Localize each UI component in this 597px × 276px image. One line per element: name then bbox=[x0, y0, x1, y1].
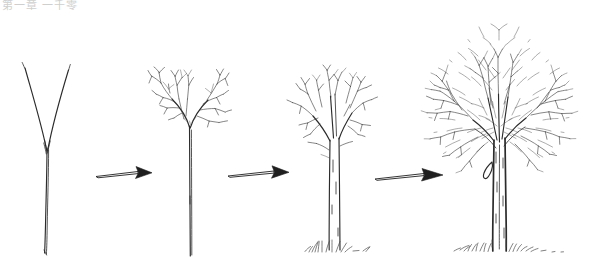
stage-1-branch-left bbox=[25, 68, 47, 150]
arrow-2 bbox=[228, 166, 289, 178]
stage-1-branch-left-tip bbox=[22, 63, 24, 69]
arrow-1 bbox=[96, 167, 152, 179]
arrow-3-head-icon bbox=[422, 169, 444, 182]
stage-1-sapling bbox=[22, 63, 70, 256]
illustration-canvas: 第一章 一千零 bbox=[0, 0, 597, 276]
arrow-3-shaft bbox=[375, 174, 424, 181]
stage-4-trunk-left bbox=[493, 140, 494, 251]
stage-4-mature-tree bbox=[421, 24, 578, 252]
stage-3-leader-center bbox=[331, 96, 334, 138]
stage-3-limb-right-main bbox=[339, 113, 352, 139]
arrow-2-shaft bbox=[228, 171, 274, 177]
stage-4-trunk-stub bbox=[483, 162, 492, 179]
tree-growth-figure bbox=[0, 0, 597, 276]
stage-2-trunk bbox=[190, 126, 191, 256]
arrow-1-shaft bbox=[96, 172, 138, 178]
stage-2-young-tree bbox=[148, 67, 232, 256]
stage-2-limb-right bbox=[190, 100, 208, 128]
arrow-3 bbox=[375, 169, 443, 182]
stage-3-leader-center-edge bbox=[335, 94, 337, 136]
stage-1-branch-right-tip bbox=[69, 65, 71, 71]
stage-4-trunk-right bbox=[505, 138, 506, 251]
stage-1-branch-right bbox=[48, 70, 69, 151]
arrow-2-head-icon bbox=[272, 166, 290, 178]
stage-3-trunk-right bbox=[339, 138, 340, 250]
stage-3-juvenile-tree bbox=[287, 65, 378, 252]
stage-3-trunk-left bbox=[329, 140, 330, 250]
